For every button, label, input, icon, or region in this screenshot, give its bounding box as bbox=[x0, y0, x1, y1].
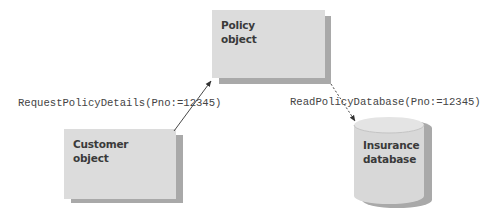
database-label-line1: Insurance bbox=[363, 138, 419, 152]
database-label: Insurance database bbox=[363, 138, 419, 166]
connectors-layer bbox=[0, 0, 492, 220]
read-message-label: ReadPolicyDatabase(Pno:=12345) bbox=[290, 96, 481, 108]
database-label-line2: database bbox=[363, 152, 419, 166]
request-message-label: RequestPolicyDetails(Pno:=12345) bbox=[18, 97, 221, 109]
